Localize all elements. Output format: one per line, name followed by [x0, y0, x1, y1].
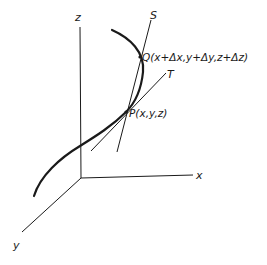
z-axis: [80, 27, 81, 178]
point-q-label: Q(x+Δx,y+Δy,z+Δz): [142, 52, 248, 63]
z-axis-label: z: [75, 12, 81, 23]
secant-line-s: [117, 20, 151, 152]
secant-label-s: S: [150, 10, 157, 21]
x-axis: [81, 175, 193, 178]
diagram-canvas: [0, 0, 267, 265]
space-curve-diagram: z x y S T Q(x+Δx,y+Δy,z+Δz) P(x,y,z): [0, 0, 267, 265]
y-axis: [22, 178, 81, 232]
point-p-label: P(x,y,z): [129, 108, 167, 119]
x-axis-label: x: [196, 170, 203, 181]
tangent-label-t: T: [167, 69, 174, 80]
point-p-marker: [124, 110, 127, 113]
y-axis-label: y: [13, 240, 20, 251]
